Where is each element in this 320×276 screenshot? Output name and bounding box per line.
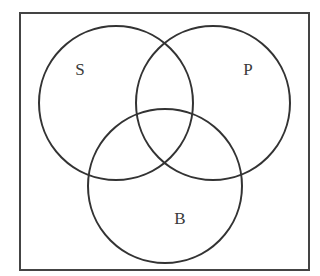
set-circle-s [39, 26, 193, 180]
universe-rectangle [20, 13, 309, 270]
venn-diagram: S P B [0, 0, 320, 276]
set-label-p: P [243, 60, 252, 79]
set-circle-b [88, 109, 242, 263]
set-label-s: S [75, 60, 84, 79]
set-circle-p [136, 26, 290, 180]
set-label-b: B [174, 209, 185, 228]
